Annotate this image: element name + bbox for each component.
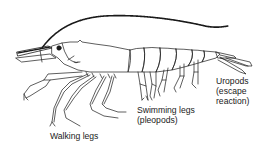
carapace (52, 40, 130, 72)
uropod-lower (218, 57, 246, 74)
label-swimming-legs: Swimming legs (pleopods) (137, 105, 195, 125)
walking-legs (24, 72, 126, 126)
label-walking-legs: Walking legs (50, 131, 98, 141)
abdomen-segment-5 (188, 50, 205, 66)
abdomen-segment-4 (172, 49, 193, 70)
eye (57, 46, 61, 50)
abdomen-segment-3 (156, 48, 177, 72)
antenna (42, 16, 228, 48)
label-uropods: Uropods (escape reaction) (216, 76, 249, 106)
uropod-upper (220, 55, 252, 66)
abdomen-segment-1 (128, 48, 145, 72)
